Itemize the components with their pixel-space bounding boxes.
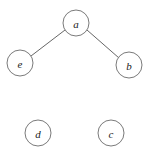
node-label-b: b <box>126 60 132 72</box>
node-label-e: e <box>18 58 23 70</box>
edge-a-b <box>87 30 119 58</box>
node-d[interactable]: d <box>25 120 51 146</box>
node-c[interactable]: c <box>98 120 124 146</box>
node-a[interactable]: a <box>63 10 89 36</box>
node-b[interactable]: b <box>116 52 142 78</box>
graph-svg: a e b d c <box>0 0 151 152</box>
node-label-c: c <box>109 128 114 140</box>
node-e[interactable]: e <box>7 50 33 76</box>
edge-a-e <box>31 30 65 56</box>
node-label-a: a <box>73 18 79 30</box>
node-label-d: d <box>35 128 41 140</box>
graph-diagram-canvas: a e b d c <box>0 0 151 152</box>
